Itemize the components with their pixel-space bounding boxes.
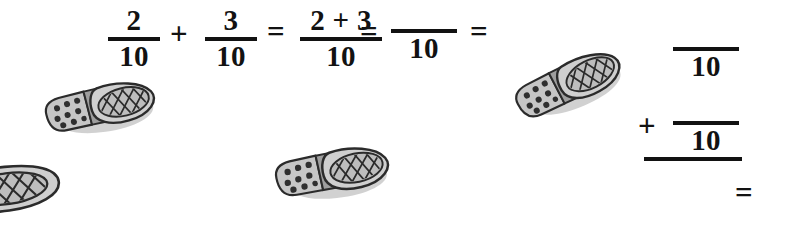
fraction-denominator: 10: [119, 42, 149, 72]
fraction-term-4-blank[interactable]: 10: [391, 6, 457, 64]
fraction-term-2: 3 10: [205, 6, 257, 71]
summation-rule: [644, 157, 742, 161]
operator-equals-1: =: [267, 16, 285, 47]
fraction-denominator: 10: [409, 34, 439, 64]
shoe-illustration-4: [0, 149, 74, 225]
fraction-numerator: 3: [224, 6, 239, 36]
shoe-illustration-3: [497, 32, 635, 134]
answer-operator-plus: +: [638, 110, 656, 141]
operator-plus-1: +: [170, 18, 188, 49]
fraction-denominator: 10: [216, 42, 246, 72]
shoe-illustration-1: [32, 66, 163, 145]
fraction-denominator: 10: [326, 42, 356, 72]
answer-operator-equals: =: [735, 177, 753, 208]
answer-denominator: 10: [691, 52, 721, 82]
fraction-numerator: 2: [127, 6, 142, 36]
fraction-term-1: 2 10: [108, 6, 160, 71]
answer-fraction-2[interactable]: 10: [673, 98, 739, 156]
shoe-illustration-2: [263, 131, 397, 208]
answer-denominator: 10: [691, 126, 721, 156]
worksheet-canvas: 2 10 + 3 10 = 2 + 3 10 = 10 = 10 + 10: [0, 0, 785, 225]
operator-equals-3: =: [470, 16, 488, 47]
operator-equals-2: =: [360, 16, 378, 47]
answer-fraction-1[interactable]: 10: [673, 24, 739, 82]
